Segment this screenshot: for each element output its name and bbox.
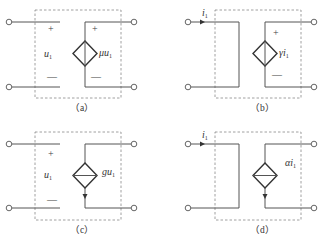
control-current-label: i1	[202, 129, 208, 141]
control-minus: —	[46, 71, 58, 82]
input-terminal-bottom	[185, 205, 191, 211]
output-terminal-bottom	[311, 84, 317, 90]
input-terminal-bottom	[6, 84, 12, 90]
current-direction-arrow-icon	[263, 194, 268, 199]
panel-c: + u1 — gu1 （c）	[6, 132, 137, 235]
output-terminal-bottom	[131, 205, 137, 211]
panel-b: i1 + γi1 — （b）	[185, 7, 317, 113]
panel-d: i1 αi1 （d）	[185, 129, 317, 235]
current-arrow-icon	[200, 20, 205, 25]
source-plus: +	[92, 23, 98, 34]
output-terminal-top	[311, 19, 317, 25]
control-plus: +	[48, 148, 54, 159]
source-label: αi1	[285, 157, 296, 169]
panel-a: + u1 — + μu1 — （a）	[6, 10, 137, 113]
input-terminal-bottom	[6, 205, 12, 211]
caption-a: （a）	[70, 102, 94, 113]
source-minus: —	[271, 69, 283, 80]
caption-d: （d）	[250, 224, 275, 235]
caption-b: （b）	[250, 102, 275, 113]
output-terminal-top	[311, 141, 317, 147]
output-terminal-bottom	[311, 205, 317, 211]
source-label: γi1	[279, 47, 289, 59]
current-arrow-icon	[200, 142, 205, 147]
control-plus: +	[48, 23, 54, 34]
caption-c: （c）	[70, 224, 94, 235]
input-terminal-top	[185, 19, 191, 25]
control-voltage-label: u1	[44, 169, 52, 181]
controlled-sources-diagram: + u1 — + μu1 — （a） i1 + γi1 —	[0, 0, 326, 242]
control-minus: —	[46, 194, 58, 205]
control-current-label: i1	[202, 7, 208, 19]
input-terminal-top	[6, 141, 12, 147]
source-label: gu1	[102, 166, 115, 178]
current-direction-arrow-icon	[83, 194, 88, 199]
control-voltage-label: u1	[44, 48, 52, 60]
output-terminal-top	[131, 19, 137, 25]
input-terminal-top	[185, 141, 191, 147]
source-label: μu1	[98, 47, 112, 59]
source-plus: +	[273, 27, 279, 38]
source-minus: —	[90, 71, 102, 82]
output-terminal-top	[131, 141, 137, 147]
input-terminal-top	[6, 19, 12, 25]
output-terminal-bottom	[131, 84, 137, 90]
input-terminal-bottom	[185, 84, 191, 90]
